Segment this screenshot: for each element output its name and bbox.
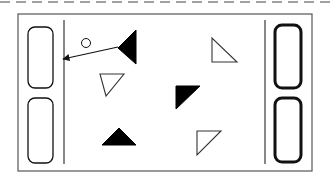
triangle-filled-up-icon — [102, 128, 136, 145]
triangle-obstacles — [100, 30, 237, 155]
ball-icon — [82, 39, 91, 48]
triangle-filled-down-left-icon — [176, 86, 200, 109]
triangle-filled-left-pointing-icon — [118, 30, 136, 64]
left-paddle-1[interactable] — [28, 27, 53, 88]
left-paddle-group — [28, 27, 53, 163]
left-paddle-2[interactable] — [28, 98, 53, 163]
playfield-frame — [18, 14, 312, 171]
direction-arrow-icon — [63, 47, 118, 59]
right-paddle-group — [275, 25, 301, 162]
triangle-outline-top-right-icon — [212, 38, 237, 62]
right-paddle-1[interactable] — [275, 25, 301, 88]
triangle-outline-bottom-right-icon — [197, 131, 221, 155]
triangle-outline-down-left-icon — [100, 74, 124, 96]
game-canvas[interactable] — [0, 0, 332, 182]
right-paddle-2[interactable] — [275, 98, 301, 162]
